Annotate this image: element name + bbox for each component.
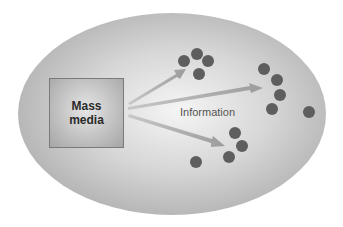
mass-media-label: Mass media <box>69 99 104 127</box>
mass-media-box: Mass media <box>49 78 124 148</box>
audience-dot <box>229 127 241 139</box>
information-label: Information <box>180 106 235 118</box>
audience-dot <box>236 140 248 152</box>
audience-dot <box>271 74 283 86</box>
audience-dot <box>202 55 214 67</box>
audience-dot <box>223 151 235 163</box>
audience-dot <box>191 48 203 60</box>
audience-dot <box>178 55 190 67</box>
audience-dot <box>193 68 205 80</box>
audience-dot <box>274 89 286 101</box>
audience-dot <box>303 106 315 118</box>
audience-dot <box>190 156 202 168</box>
label-line-1: Mass <box>69 99 104 113</box>
audience-dot <box>258 63 270 75</box>
audience-dot <box>266 103 278 115</box>
label-line-2: media <box>69 113 104 127</box>
